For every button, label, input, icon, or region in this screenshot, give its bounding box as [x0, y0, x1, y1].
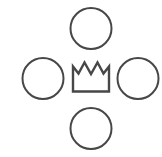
crown-icon[interactable] — [73, 63, 109, 92]
crown-diagram — [0, 0, 162, 157]
circle-right[interactable] — [118, 58, 159, 99]
circle-top[interactable] — [71, 8, 112, 49]
circle-bottom[interactable] — [71, 108, 112, 149]
circle-left[interactable] — [23, 58, 64, 99]
diagram-canvas — [0, 0, 162, 157]
